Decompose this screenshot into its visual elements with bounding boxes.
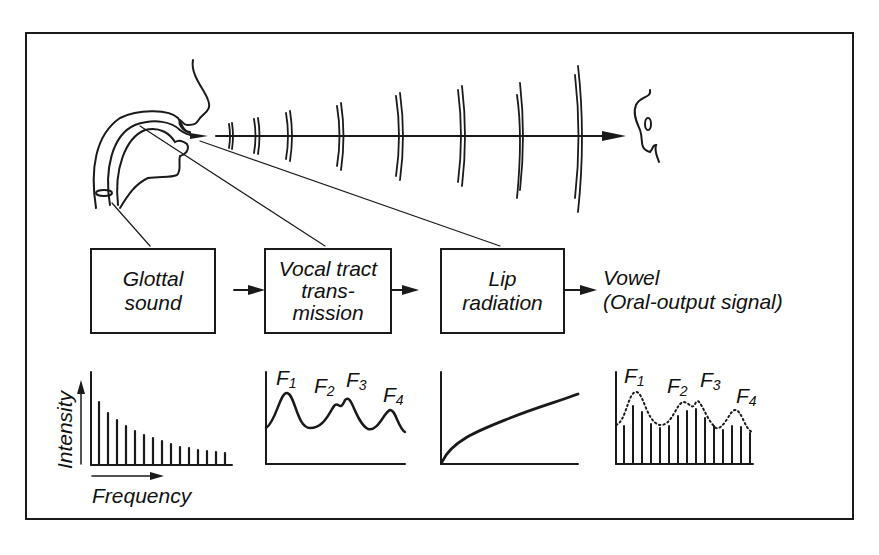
ear-icon	[635, 90, 659, 162]
formant-label-f1: F1	[276, 366, 297, 391]
arrow-icon	[402, 285, 419, 295]
mouth-arrow-icon	[190, 133, 208, 139]
vocal-tract-label-3: mission	[292, 301, 363, 324]
output-label: Vowel(Oral-output signal)	[603, 266, 783, 314]
vocal-tract-block: Vocal tracttrans-mission	[264, 248, 392, 334]
glottal-sound-block: Glottalsound	[90, 248, 216, 334]
source-spectrum-graph	[77, 372, 232, 480]
lip-label-2: radiation	[462, 291, 543, 314]
output-label-2: (Oral-output signal)	[603, 290, 783, 313]
frequency-axis-label: Frequency	[92, 484, 191, 508]
vocal-tract-label-2: trans-	[301, 279, 355, 302]
propagation-arrow-icon	[602, 131, 626, 141]
output-formant-label-f4: F4	[736, 384, 757, 409]
output-label-1: Vowel	[603, 266, 659, 289]
intensity-axis-label: Intensity	[53, 385, 77, 475]
formant-label-f4: F4	[383, 383, 404, 408]
lip-label-1: Lip	[488, 267, 516, 290]
sound-waves-icon	[229, 66, 582, 212]
formant-label-f2: F2	[314, 374, 335, 399]
connector-lines	[112, 126, 500, 246]
output-formant-label-f1: F1	[624, 364, 645, 389]
arrow-icon	[580, 285, 597, 295]
output-formant-label-f2: F2	[667, 374, 688, 399]
formant-label-f3: F3	[346, 368, 367, 393]
glottal-label-1: Glottal	[123, 267, 184, 290]
vocal-tract-label-1: Vocal tract	[279, 257, 377, 280]
lip-radiation-block: Lipradiation	[440, 248, 565, 334]
output-formant-label-f3: F3	[700, 368, 721, 393]
arrow-icon	[248, 285, 265, 295]
glottal-label-2: sound	[124, 291, 181, 314]
lip-radiation-graph	[441, 372, 578, 464]
